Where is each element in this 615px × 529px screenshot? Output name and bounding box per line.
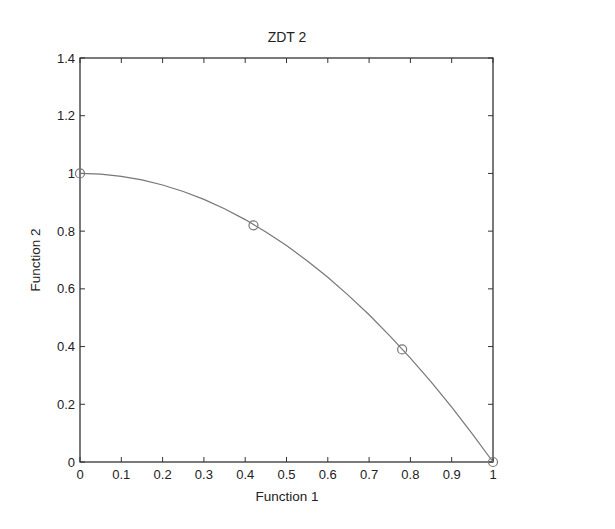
- y-tick-label: 0.8: [57, 224, 75, 239]
- x-tick-label: 0.9: [443, 467, 461, 482]
- plot-frame: [80, 58, 493, 462]
- chart: ZDT 2 00.10.20.30.40.50.60.70.80.91 00.2…: [0, 0, 615, 529]
- x-tick-label: 0.1: [112, 467, 130, 482]
- x-tick-label: 0.5: [277, 467, 295, 482]
- solution-marker: [249, 221, 258, 230]
- x-tick-label: 0: [76, 467, 83, 482]
- chart-title: ZDT 2: [268, 29, 307, 45]
- y-tick-label: 0: [68, 455, 75, 470]
- pareto-front-line: [80, 173, 493, 462]
- y-tick-label: 1: [68, 166, 75, 181]
- x-tick-label: 0.7: [360, 467, 378, 482]
- y-axis-ticks: 00.20.40.60.811.21.4: [57, 51, 493, 470]
- y-tick-label: 0.6: [57, 281, 75, 296]
- x-tick-label: 0.3: [195, 467, 213, 482]
- y-tick-label: 0.2: [57, 397, 75, 412]
- y-tick-label: 1.4: [57, 51, 75, 66]
- plot-area: [80, 58, 493, 462]
- x-axis-ticks: 00.10.20.30.40.50.60.70.80.91: [76, 58, 496, 482]
- x-tick-label: 0.4: [236, 467, 254, 482]
- x-axis-label: Function 1: [255, 489, 318, 504]
- x-tick-label: 1: [489, 467, 496, 482]
- y-axis-label: Function 2: [28, 228, 43, 291]
- y-tick-label: 0.4: [57, 339, 75, 354]
- data-series: [76, 169, 498, 467]
- x-tick-label: 0.8: [401, 467, 419, 482]
- x-tick-label: 0.2: [154, 467, 172, 482]
- x-tick-label: 0.6: [319, 467, 337, 482]
- y-tick-label: 1.2: [57, 108, 75, 123]
